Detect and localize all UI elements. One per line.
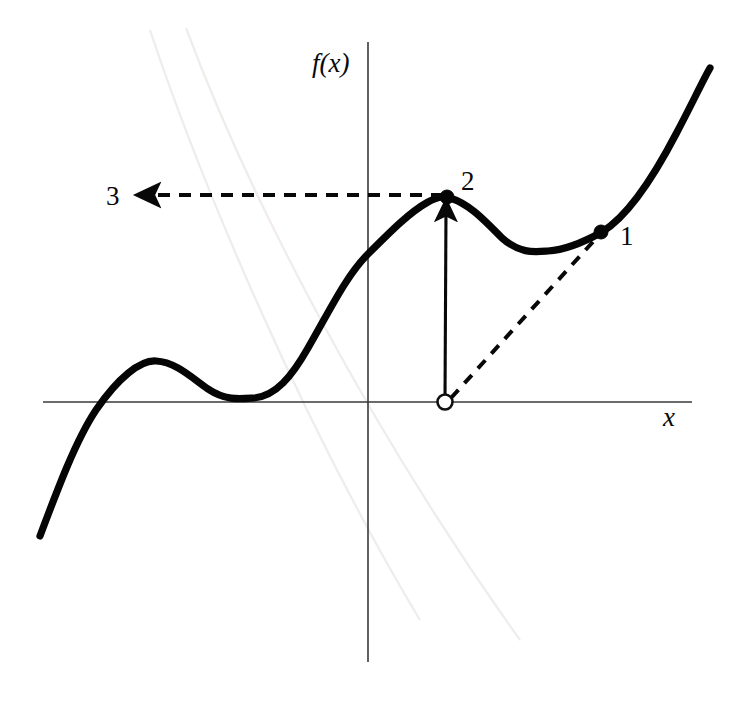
open-circle-marker <box>438 395 453 410</box>
annotation-label-3: 3 <box>106 181 120 211</box>
y-axis-label: f(x) <box>312 48 349 78</box>
annotation-label-2: 2 <box>461 166 475 196</box>
paper-ghost-marks <box>150 28 520 640</box>
figure-container: f(x) x 1 2 3 <box>0 0 733 714</box>
function-graph-svg: f(x) x 1 2 3 <box>0 0 733 714</box>
point-2-marker <box>440 190 454 204</box>
annotation-label-1: 1 <box>620 221 634 251</box>
diagonal-dashed-line <box>451 234 600 398</box>
vertical-solid-arrow <box>445 210 446 401</box>
axes-group <box>43 42 692 662</box>
markers-group <box>438 190 609 410</box>
function-curve <box>40 68 710 536</box>
point-1-marker <box>594 225 608 239</box>
x-axis-label: x <box>662 402 675 432</box>
